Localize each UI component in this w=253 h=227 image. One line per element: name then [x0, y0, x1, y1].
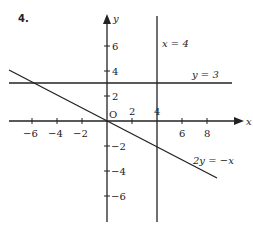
y-tick-label: −6 — [111, 191, 126, 202]
coordinate-graph: 4. x y −6 −4 −2 2 4 6 8 6 4 2 −2 −4 −6 — [0, 0, 253, 227]
line-2y-label: 2y = −x — [192, 155, 234, 166]
y-tick-label: −4 — [111, 166, 126, 177]
y-axis-arrow-icon — [103, 14, 111, 24]
y-tick-label: −2 — [111, 141, 126, 152]
x-tick-label: 6 — [179, 128, 185, 139]
x-tick-label: −6 — [23, 128, 38, 139]
y-axis-label: y — [112, 13, 119, 24]
line-x4-label: x = 4 — [162, 38, 189, 49]
x-tick-label: 8 — [204, 128, 210, 139]
line-2y-equals-neg-x — [9, 70, 217, 178]
question-number: 4. — [18, 13, 29, 24]
x-axis-arrow-icon — [234, 117, 244, 125]
x-axis: x — [9, 116, 252, 127]
x-tick-label: −2 — [73, 128, 88, 139]
x-tick-label: −4 — [48, 128, 63, 139]
x-tick-label: 2 — [129, 106, 135, 117]
y-tick-label: 6 — [112, 41, 118, 52]
origin-label: O — [109, 109, 117, 120]
x-axis-label: x — [246, 116, 252, 127]
line-y3-label: y = 3 — [191, 69, 219, 80]
y-tick-label: 4 — [112, 66, 118, 77]
y-tick-label: 2 — [112, 91, 118, 102]
